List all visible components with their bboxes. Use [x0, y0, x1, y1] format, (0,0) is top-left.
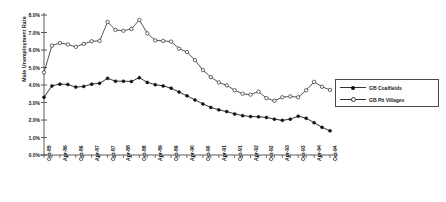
x-axis-tick-label: Apr-94 [316, 145, 322, 161]
legend-label-coalfields: GB Coalfields [369, 85, 402, 91]
y-axis-tick-label: 0.0% [18, 152, 40, 158]
legend-marker-open-circle-icon [340, 96, 366, 103]
x-axis-tick-label: Apr-89 [157, 145, 163, 161]
chart-container: Male Unemployment Rate GB Coalfields GB … [0, 0, 446, 202]
legend-item-coalfields[interactable]: GB Coalfields [340, 82, 402, 93]
x-axis-tick-label: Oct-86 [78, 145, 84, 161]
x-axis-tick-label: Oct-88 [141, 145, 147, 161]
y-axis-tick-label: 7.0% [18, 30, 40, 36]
x-axis-tick-label: Oct-89 [173, 145, 179, 161]
y-axis-tick-label: 3.0% [18, 100, 40, 106]
x-axis-tick-label: Oct-93 [300, 145, 306, 161]
x-axis-tick-label: Apr-86 [62, 145, 68, 161]
x-axis-tick-label: Apr-91 [221, 145, 227, 161]
legend-marker-filled-circle-icon [340, 84, 366, 91]
y-axis-tick-label: 5.0% [18, 65, 40, 71]
y-axis-tick-label: 4.0% [18, 82, 40, 88]
y-axis-tick-label: 2.0% [18, 117, 40, 123]
x-axis-tick-label: Apr-90 [189, 145, 195, 161]
chart-legend: GB Coalfields GB Pit Villages [335, 79, 439, 107]
x-axis-tick-label: Apr-88 [125, 145, 131, 161]
x-axis-tick-label: Oct-87 [110, 145, 116, 161]
x-axis-tick-label: Oct-85 [46, 145, 52, 161]
y-axis-tick-label: 1.0% [18, 135, 40, 141]
legend-item-pit-villages[interactable]: GB Pit Villages [340, 94, 404, 105]
x-axis-tick-label: Oct-90 [205, 145, 211, 161]
legend-label-pit-villages: GB Pit Villages [369, 97, 404, 103]
y-axis-tick-label: 6.0% [18, 47, 40, 53]
y-axis-tick-label: 8.0% [18, 12, 40, 18]
x-axis-tick-label: Apr-87 [94, 145, 100, 161]
x-axis-tick-label: Oct-91 [237, 145, 243, 161]
x-axis-tick-label: Oct-94 [332, 145, 338, 161]
x-axis-tick-label: Apr-93 [284, 145, 290, 161]
x-axis-tick-label: Apr-92 [253, 145, 259, 161]
x-axis-tick-label: Oct-92 [268, 145, 274, 161]
